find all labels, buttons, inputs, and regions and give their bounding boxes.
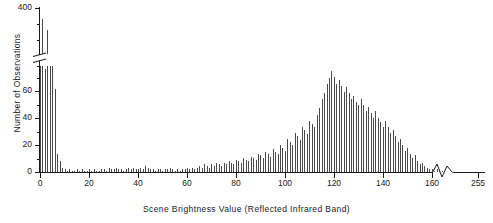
histogram-bar	[243, 158, 244, 172]
histogram-bar	[187, 168, 188, 173]
histogram-bar	[353, 96, 354, 172]
histogram-bar	[236, 160, 237, 172]
histogram-bar	[211, 164, 212, 172]
histogram-bar	[194, 169, 195, 172]
histogram-bar	[356, 102, 357, 172]
histogram-bar	[265, 152, 266, 172]
histogram-bar	[89, 169, 90, 172]
histogram-bar	[99, 171, 100, 173]
histogram-bar	[65, 169, 66, 172]
histogram-bar	[79, 171, 80, 173]
histogram-bar-upper	[42, 19, 43, 54]
histogram-bar	[140, 168, 141, 173]
x-tick-label-160: 160	[417, 178, 447, 188]
histogram-bar	[189, 169, 190, 172]
x-tick-label-40: 40	[123, 178, 153, 188]
histogram-bar	[42, 66, 43, 172]
histogram-bar	[278, 154, 279, 172]
histogram-bar	[263, 158, 264, 172]
histogram-bar	[121, 169, 122, 172]
histogram-bar	[358, 105, 359, 172]
histogram-bar	[314, 127, 315, 172]
histogram-bar	[280, 145, 281, 172]
x-tick-label-80: 80	[221, 178, 251, 188]
histogram-bar	[216, 163, 217, 172]
histogram-bar	[304, 130, 305, 172]
histogram-bar	[185, 169, 186, 172]
x-tick-label-60: 60	[172, 178, 202, 188]
histogram-bar	[231, 163, 232, 172]
histogram-bar	[47, 66, 48, 172]
histogram-bar	[226, 164, 227, 172]
x-tick-label-140: 140	[368, 178, 398, 188]
histogram-bar	[67, 171, 68, 173]
histogram-bar	[400, 139, 401, 172]
histogram-bar	[380, 122, 381, 172]
histogram-bar	[336, 84, 337, 172]
histogram-bar	[407, 148, 408, 172]
histogram-bar	[282, 148, 283, 172]
histogram-bar	[248, 161, 249, 172]
histogram-bar	[437, 169, 438, 172]
histogram-bar	[339, 80, 340, 172]
histogram-bar	[373, 118, 374, 173]
histogram-bar	[344, 92, 345, 172]
histogram-bar	[219, 164, 220, 172]
y-axis-label: Number of Observations	[12, 8, 22, 158]
histogram-bar	[420, 164, 421, 172]
histogram-bar	[258, 154, 259, 172]
histogram-bar	[123, 171, 124, 173]
x-tick-label-20: 20	[74, 178, 104, 188]
histogram-bar	[52, 66, 53, 172]
histogram-bar	[60, 161, 61, 172]
histogram-bar	[260, 155, 261, 172]
histogram-bar	[207, 166, 208, 172]
histogram-bar	[165, 169, 166, 172]
histogram-bars-upper	[40, 6, 444, 54]
histogram-bar	[390, 133, 391, 172]
histogram-bar	[442, 171, 443, 173]
histogram-bar	[162, 171, 163, 173]
histogram-bar	[148, 168, 149, 173]
y-tick-label-20: 20	[4, 139, 32, 149]
histogram-bar	[405, 151, 406, 172]
histogram-bar	[253, 158, 254, 172]
histogram-bar	[172, 169, 173, 172]
histogram-bar	[366, 111, 367, 172]
histogram-bar	[233, 164, 234, 172]
histogram-bar	[361, 99, 362, 172]
histogram-bar	[111, 169, 112, 172]
histogram-bar	[273, 149, 274, 172]
histogram-bar	[96, 171, 97, 173]
histogram-bar	[40, 66, 41, 172]
histogram-bar	[398, 142, 399, 172]
histogram-bar	[202, 168, 203, 173]
histogram-bar	[69, 169, 70, 172]
histogram-bar	[302, 127, 303, 172]
histogram-bar	[104, 169, 105, 172]
histogram-bar	[155, 171, 156, 173]
histogram-bar	[77, 169, 78, 172]
histogram-bar	[177, 169, 178, 172]
histogram-bar	[197, 168, 198, 173]
x-tick-label-255: 255	[463, 178, 493, 188]
histogram-bar	[256, 160, 257, 172]
histogram-bar	[241, 163, 242, 172]
histogram-bar	[363, 105, 364, 172]
histogram-bar	[167, 169, 168, 172]
histogram-bar	[295, 133, 296, 172]
histogram-bar	[385, 121, 386, 173]
histogram-bar	[175, 171, 176, 173]
histogram-bar	[341, 86, 342, 172]
histogram-bar	[324, 93, 325, 172]
histogram-bar	[329, 78, 330, 172]
histogram-bar	[45, 69, 46, 172]
histogram-bar	[297, 136, 298, 172]
histogram-bar	[82, 169, 83, 172]
histogram-bar	[101, 169, 102, 172]
histogram-bar	[432, 169, 433, 172]
histogram-bar	[133, 168, 134, 173]
histogram-bar	[417, 161, 418, 172]
histogram-bar	[429, 169, 430, 172]
histogram-bar	[170, 168, 171, 173]
